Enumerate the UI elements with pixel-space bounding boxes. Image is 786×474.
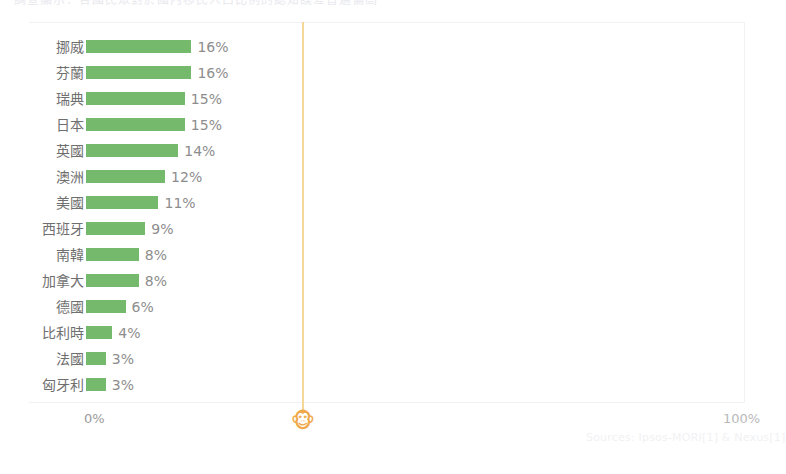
bar-track — [86, 118, 185, 131]
bar-category-label: 匈牙利 — [0, 372, 84, 398]
bar-category-label: 德國 — [0, 294, 84, 320]
bar-row: 南韓8% — [29, 242, 745, 268]
bar-row: 美國11% — [29, 190, 745, 216]
bar-track — [86, 144, 178, 157]
chart-card: 挪威16%芬蘭16%瑞典15%日本15%英國14%澳洲12%美國11%西班牙9%… — [29, 22, 745, 403]
bar-track — [86, 92, 185, 105]
bar-row: 加拿大8% — [29, 268, 745, 294]
bar-fill — [86, 170, 165, 183]
bar-track — [86, 66, 191, 79]
bar-value-label: 11% — [164, 190, 195, 216]
x-axis-max-label: 100% — [723, 411, 760, 426]
bar-value-label: 14% — [184, 138, 215, 164]
bar-row: 瑞典15% — [29, 86, 745, 112]
bar-category-label: 美國 — [0, 190, 84, 216]
bar-fill — [86, 352, 106, 365]
bar-row: 比利時4% — [29, 320, 745, 346]
bar-value-label: 3% — [112, 372, 134, 398]
bar-fill — [86, 196, 158, 209]
bar-category-label: 芬蘭 — [0, 60, 84, 86]
bar-fill — [86, 378, 106, 391]
bar-row: 挪威16% — [29, 34, 745, 60]
bar-track — [86, 300, 126, 313]
bar-fill — [86, 118, 185, 131]
bar-category-label: 挪威 — [0, 34, 84, 60]
bar-fill — [86, 300, 126, 313]
bar-category-label: 南韓 — [0, 242, 84, 268]
bar-value-label: 9% — [151, 216, 173, 242]
bar-value-label: 3% — [112, 346, 134, 372]
reference-line — [302, 22, 304, 410]
bar-track — [86, 274, 139, 287]
bar-fill — [86, 40, 191, 53]
bar-fill — [86, 274, 139, 287]
bar-chart-plot-area: 挪威16%芬蘭16%瑞典15%日本15%英國14%澳洲12%美國11%西班牙9%… — [29, 23, 745, 404]
bar-category-label: 瑞典 — [0, 86, 84, 112]
bar-value-label: 4% — [118, 320, 140, 346]
bar-track — [86, 378, 106, 391]
monkey-face-icon: 🐵 — [288, 408, 318, 434]
bar-category-label: 澳洲 — [0, 164, 84, 190]
bar-category-label: 法國 — [0, 346, 84, 372]
bar-fill — [86, 326, 112, 339]
bar-value-label: 12% — [171, 164, 202, 190]
bar-category-label: 日本 — [0, 112, 84, 138]
bar-category-label: 西班牙 — [0, 216, 84, 242]
bar-track — [86, 326, 112, 339]
bar-value-label: 15% — [191, 112, 222, 138]
bar-row: 澳洲12% — [29, 164, 745, 190]
bar-category-label: 加拿大 — [0, 268, 84, 294]
x-axis-min-label: 0% — [84, 411, 105, 426]
bar-fill — [86, 222, 145, 235]
bar-track — [86, 196, 158, 209]
bar-row: 法國3% — [29, 346, 745, 372]
bar-fill — [86, 144, 178, 157]
bar-fill — [86, 92, 185, 105]
bar-row: 西班牙9% — [29, 216, 745, 242]
bar-fill — [86, 66, 191, 79]
bar-row: 德國6% — [29, 294, 745, 320]
bar-row: 英國14% — [29, 138, 745, 164]
bar-row: 芬蘭16% — [29, 60, 745, 86]
bar-value-label: 8% — [145, 268, 167, 294]
bar-value-label: 16% — [197, 34, 228, 60]
bar-fill — [86, 248, 139, 261]
bar-track — [86, 352, 106, 365]
clipped-headline-text: 調查顯示：各國民眾對於國內移民人口比例的認知誤差普遍偏高 — [14, 0, 714, 6]
bar-value-label: 8% — [145, 242, 167, 268]
bar-track — [86, 248, 139, 261]
bar-track — [86, 40, 191, 53]
bar-track — [86, 170, 165, 183]
bar-value-label: 15% — [191, 86, 222, 112]
bar-track — [86, 222, 145, 235]
bar-row: 匈牙利3% — [29, 372, 745, 398]
bar-category-label: 英國 — [0, 138, 84, 164]
source-note: Sources: Ipsos-MORI[1] & Nexus[1] — [586, 431, 786, 444]
bar-value-label: 16% — [197, 60, 228, 86]
bar-row: 日本15% — [29, 112, 745, 138]
bar-category-label: 比利時 — [0, 320, 84, 346]
bar-value-label: 6% — [132, 294, 154, 320]
